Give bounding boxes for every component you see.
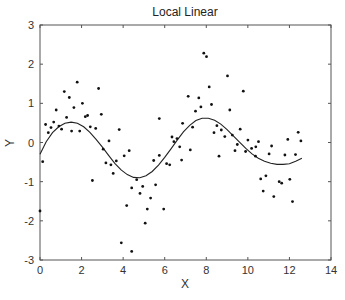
data-point — [55, 109, 58, 112]
data-point — [78, 130, 81, 133]
data-point — [94, 127, 97, 130]
data-point — [208, 86, 211, 89]
plot-area: 02468101214 -3-2-10123 — [24, 19, 337, 276]
data-point — [41, 160, 44, 163]
data-point — [39, 210, 42, 213]
data-point — [91, 179, 94, 182]
data-point — [162, 208, 165, 211]
data-point — [218, 155, 221, 158]
data-point — [97, 87, 100, 90]
data-point — [130, 187, 133, 190]
y-axis-label: Y — [3, 139, 17, 147]
chart-title: Local Linear — [152, 5, 217, 19]
data-point — [210, 103, 213, 106]
data-point — [158, 117, 161, 120]
data-point — [168, 163, 171, 166]
x-tick-label: 2 — [79, 264, 85, 276]
data-point — [194, 110, 197, 113]
data-point — [268, 153, 271, 156]
fit-line-path — [40, 118, 302, 178]
data-point — [284, 154, 287, 157]
y-tick-label: 1 — [28, 97, 34, 109]
data-point — [73, 106, 76, 109]
data-point — [223, 135, 226, 138]
data-point — [236, 143, 239, 146]
x-tick-label: 4 — [120, 264, 126, 276]
y-tick-label: 2 — [28, 58, 34, 70]
chart-figure: Local Linear 02468101214 -3-2-10123 X Y — [0, 0, 345, 300]
y-tick-label: 0 — [28, 137, 34, 149]
data-point — [180, 159, 183, 162]
data-point — [262, 190, 265, 193]
data-point — [257, 140, 260, 143]
data-point — [144, 222, 147, 225]
data-point — [81, 102, 84, 105]
data-point — [213, 131, 216, 134]
scatter-points — [39, 52, 303, 253]
x-tick-label: 6 — [162, 264, 168, 276]
data-point — [152, 159, 155, 162]
data-point — [247, 139, 250, 142]
data-point — [60, 128, 63, 131]
data-point — [146, 208, 149, 211]
x-tick-label: 12 — [283, 264, 295, 276]
data-point — [280, 182, 283, 185]
data-point — [120, 241, 123, 244]
data-point — [105, 162, 108, 165]
data-point — [68, 96, 71, 99]
data-point — [63, 90, 66, 93]
data-point — [139, 192, 142, 195]
data-point — [216, 124, 219, 127]
data-point — [205, 55, 208, 58]
data-point — [178, 145, 181, 148]
data-point — [173, 140, 176, 143]
data-point — [47, 131, 50, 134]
data-point — [108, 140, 111, 143]
data-point — [70, 130, 73, 133]
data-point — [135, 178, 138, 181]
data-point — [86, 114, 89, 117]
data-point — [234, 149, 237, 152]
data-point — [123, 154, 126, 157]
data-point — [189, 149, 192, 152]
x-axis-ticks: 02468101214 — [37, 25, 337, 276]
data-point — [220, 129, 223, 132]
data-point — [291, 200, 294, 203]
data-point — [165, 162, 168, 165]
data-point — [259, 178, 262, 181]
data-point — [89, 125, 92, 128]
data-point — [200, 106, 203, 109]
data-point — [226, 75, 229, 78]
x-axis-label: X — [181, 277, 189, 291]
data-point — [102, 148, 105, 151]
data-point — [288, 178, 291, 181]
data-point — [149, 197, 152, 200]
data-point — [115, 160, 118, 163]
data-point — [110, 163, 113, 166]
data-point — [58, 125, 61, 128]
y-tick-label: -2 — [24, 215, 34, 227]
y-tick-label: 3 — [28, 19, 34, 31]
data-point — [231, 134, 234, 137]
data-point — [265, 174, 268, 177]
data-point — [176, 137, 179, 140]
data-point — [118, 128, 121, 131]
axes-frame — [40, 25, 331, 260]
data-point — [278, 180, 281, 183]
x-tick-label: 14 — [325, 264, 337, 276]
x-tick-label: 0 — [37, 264, 43, 276]
data-point — [297, 131, 300, 134]
data-point — [286, 138, 289, 141]
data-point — [191, 126, 194, 129]
data-point — [272, 195, 275, 198]
data-point — [250, 147, 253, 150]
data-point — [100, 113, 103, 116]
data-point — [154, 183, 157, 186]
data-point — [112, 172, 115, 175]
data-point — [141, 185, 144, 188]
data-point — [239, 128, 242, 131]
x-tick-label: 10 — [242, 264, 254, 276]
data-point — [128, 149, 131, 152]
data-point — [300, 140, 303, 143]
fit-curve — [40, 118, 302, 178]
